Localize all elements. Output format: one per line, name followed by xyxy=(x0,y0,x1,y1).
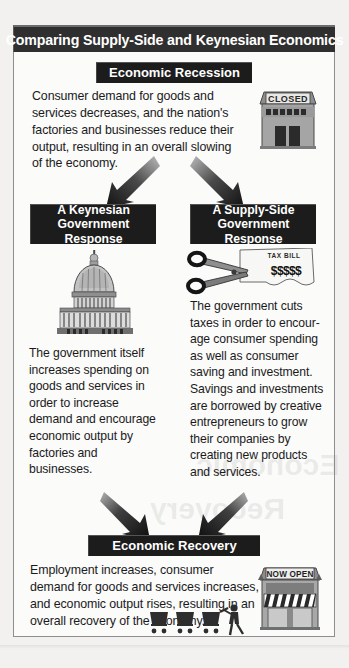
section-label-supply-side: A Supply-Side Government Response xyxy=(190,204,316,244)
section-label-recession: Economic Recession xyxy=(96,62,252,83)
keynesian-label-line2: Government Response xyxy=(58,217,130,245)
capitol-building-icon xyxy=(57,248,133,334)
shoppers-with-carts-icon xyxy=(146,604,256,638)
arrow-merge-right xyxy=(190,492,248,540)
scissors-cutting-tax-bill-icon: TAX BILL $$$$$ xyxy=(186,248,318,298)
svg-text:NOW OPEN: NOW OPEN xyxy=(266,570,313,579)
svg-text:CLOSED: CLOSED xyxy=(268,94,308,104)
section-label-keynesian: A Keynesian Government Response xyxy=(30,204,156,244)
closed-storefront-icon: CLOSED xyxy=(252,88,324,150)
section-label-recovery: Economic Recovery xyxy=(88,535,260,556)
figure-title: Comparing Supply-Side and Keynesian Econ… xyxy=(13,25,335,52)
tax-bill-money-text: $$$$$ xyxy=(271,264,302,278)
section-body-supply-side: The government cuts taxes in order to en… xyxy=(190,298,330,481)
tax-bill-paper-text: TAX BILL xyxy=(268,252,301,259)
supply-side-label-line1: A Supply-Side xyxy=(212,203,294,217)
keynesian-label-line1: A Keynesian xyxy=(57,203,130,217)
section-body-keynesian: The government itself increases spending… xyxy=(29,345,161,478)
page-bottom-shadow xyxy=(0,645,349,649)
arrow-split-right xyxy=(190,156,250,208)
open-storefront-icon: NOW OPEN xyxy=(254,564,326,630)
supply-side-label-line2: Government Response xyxy=(218,217,290,245)
arrow-merge-left xyxy=(100,492,158,540)
arrow-split-left xyxy=(100,156,160,208)
